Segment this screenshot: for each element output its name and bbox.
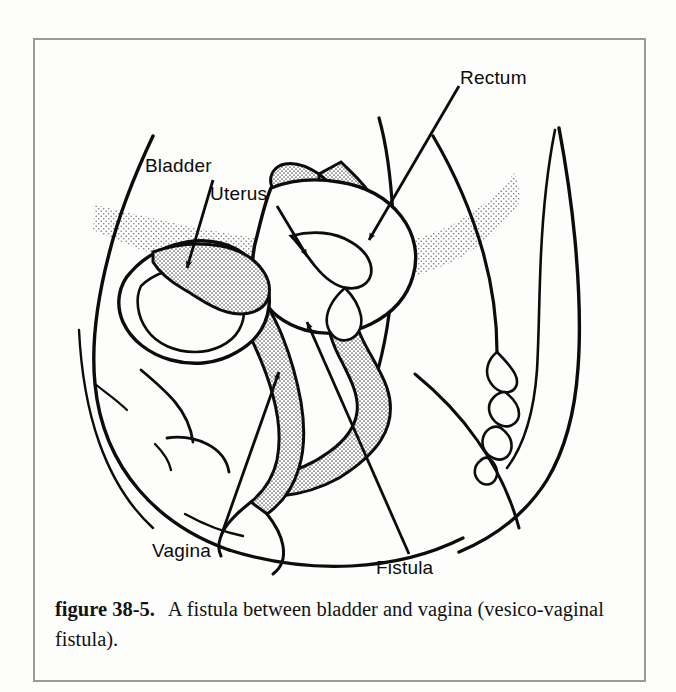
illustration-svg [35,40,644,590]
figure-number: figure 38-5. [55,598,155,620]
label-fistula: Fistula [376,557,433,579]
figure-caption: figure 38-5.A fistula between bladder an… [55,595,630,654]
anatomical-illustration: Bladder Uterus Rectum Vagina Fistula [35,40,644,590]
label-rectum: Rectum [460,67,527,89]
figure-frame: Bladder Uterus Rectum Vagina Fistula fig… [33,38,646,682]
label-bladder: Bladder [145,155,212,177]
label-uterus: Uterus [210,183,267,205]
label-vagina: Vagina [152,540,211,562]
